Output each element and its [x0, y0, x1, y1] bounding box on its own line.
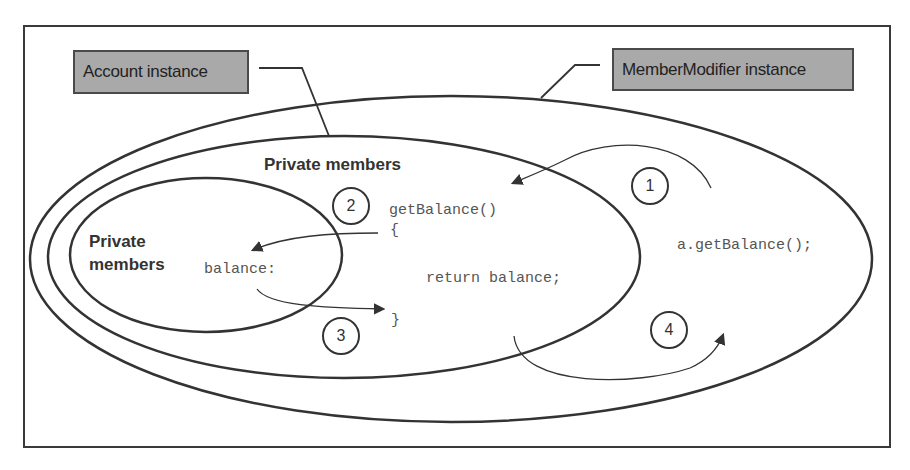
return-statement: return balance;: [426, 270, 561, 287]
arrow-step-4: [514, 335, 723, 380]
inner-private-label-line1: Private: [89, 232, 146, 252]
arrow-step-2: [253, 233, 378, 250]
account-private-members-label: Private members: [264, 155, 401, 175]
step-2-marker: 2: [332, 187, 370, 225]
step-2-number: 2: [347, 197, 356, 215]
object-scope-diagram: Account instance MemberModifier instance…: [0, 0, 910, 470]
caller-statement: a.getBalance();: [677, 237, 812, 254]
step-4-marker: 4: [650, 311, 688, 349]
method-signature: getBalance(): [389, 202, 497, 219]
inner-private-label-line2: members: [89, 255, 165, 275]
step-1-number: 1: [646, 177, 655, 195]
balance-field: balance:: [204, 261, 276, 278]
close-brace: }: [391, 312, 400, 329]
member-modifier-instance-label: MemberModifier instance: [612, 48, 854, 91]
account-instance-text: Account instance: [83, 62, 208, 82]
step-3-number: 3: [337, 327, 346, 345]
member-modifier-instance-text: MemberModifier instance: [622, 60, 806, 80]
member-modifier-leader-line: [541, 65, 600, 98]
arrow-step-3: [257, 289, 383, 309]
step-3-marker: 3: [322, 317, 360, 355]
step-1-marker: 1: [631, 167, 669, 205]
open-brace: {: [390, 222, 399, 239]
account-leader-line: [259, 68, 329, 136]
account-instance-label: Account instance: [73, 50, 249, 94]
step-4-number: 4: [665, 321, 674, 339]
